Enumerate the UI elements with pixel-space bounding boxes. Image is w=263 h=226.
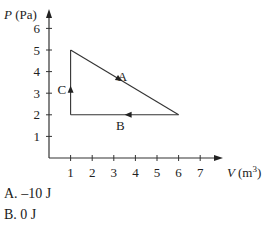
segment-label-A: A [118,69,128,84]
y-tick-label: 3 [34,86,41,101]
y-axis-arrow-icon [46,9,52,18]
pv-diagram: 1234561234567 ABCP (Pa)V (m3) [0,0,263,180]
direction-arrow-icon [125,112,132,118]
x-tick-label: 6 [175,165,182,180]
answer-a[interactable]: A. –10 J [4,183,51,204]
x-tick-label: 4 [132,165,139,180]
ticks: 1234561234567 [34,21,204,180]
x-tick-label: 5 [154,165,161,180]
y-tick-label: 2 [34,107,41,122]
segment-label-C: C [58,82,67,97]
x-tick-label: 1 [67,165,74,180]
y-tick-label: 5 [34,43,41,58]
x-axis-label: V (m3) [227,164,261,180]
x-tick-label: 3 [111,165,118,180]
answer-choices: A. –10 J B. 0 J [4,183,51,225]
y-axis-label: P (Pa) [3,7,37,22]
x-tick-label: 2 [89,165,96,180]
axes [46,9,223,161]
x-axis-arrow-icon [214,155,223,161]
answer-b[interactable]: B. 0 J [4,204,51,225]
axis-labels: ABCP (Pa)V (m3) [3,7,261,180]
x-tick-label: 7 [197,165,204,180]
direction-arrow-icon [68,86,74,93]
y-tick-label: 1 [34,129,41,144]
y-tick-label: 6 [34,21,41,36]
segment-label-B: B [116,118,125,133]
y-tick-label: 4 [34,64,41,79]
